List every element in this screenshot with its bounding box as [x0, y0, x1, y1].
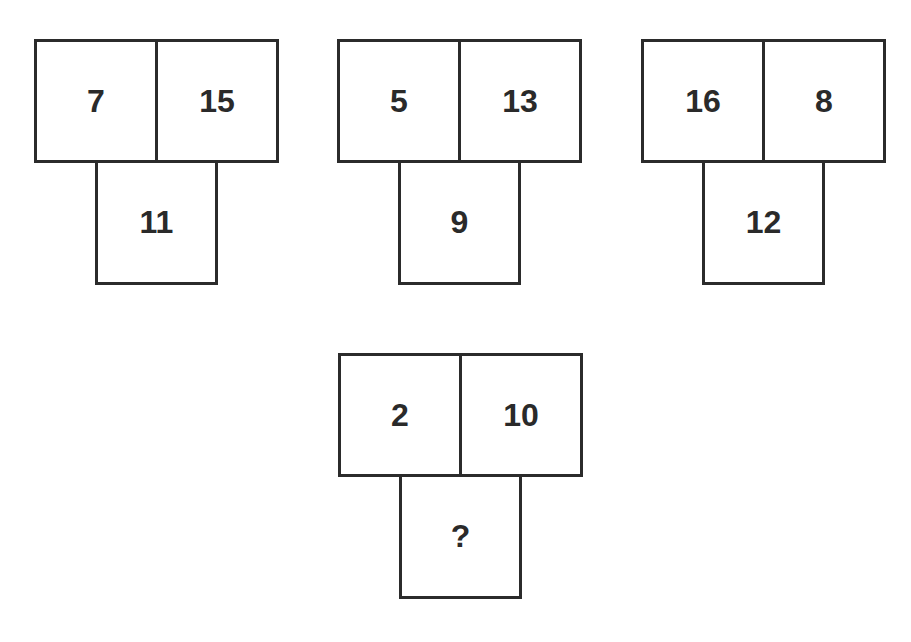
top-right-cell: 8	[762, 39, 886, 163]
puzzle-figure-question: 2 10 ?	[338, 353, 586, 603]
bottom-cell: 11	[95, 160, 218, 285]
top-right-cell: 15	[155, 39, 279, 163]
top-right-cell: 13	[458, 39, 582, 163]
top-left-cell: 16	[641, 39, 765, 163]
top-left-cell: 7	[34, 39, 158, 163]
puzzle-figure-3: 16 8 12	[641, 39, 889, 289]
top-left-cell: 2	[338, 353, 462, 477]
bottom-cell: 12	[702, 160, 825, 285]
puzzle-figure-1: 7 15 11	[34, 39, 282, 289]
top-right-cell: 10	[459, 353, 583, 477]
top-left-cell: 5	[337, 39, 461, 163]
unknown-answer-cell: ?	[399, 474, 522, 599]
puzzle-figure-2: 5 13 9	[337, 39, 585, 289]
bottom-cell: 9	[398, 160, 521, 285]
